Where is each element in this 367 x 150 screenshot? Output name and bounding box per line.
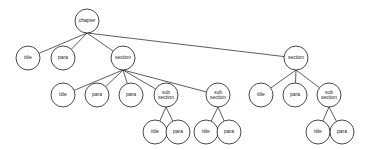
node-paraA2: para [119, 83, 143, 107]
tree-diagram: chaptertitleparasectionsectiontitleparap… [0, 0, 367, 150]
node-paraA2s: para [217, 120, 241, 144]
node-paraA1s: para [166, 120, 190, 144]
node-titleA: title [51, 83, 75, 107]
node-label: title [59, 91, 67, 97]
node-label: para [173, 128, 183, 134]
node-label: para [224, 128, 234, 134]
node-label: title [314, 128, 322, 134]
node-titleA2: title [194, 120, 218, 144]
node-label: para [290, 91, 300, 97]
node-label: section [115, 54, 131, 60]
node-subB: subsection [317, 83, 341, 107]
node-label: section [288, 54, 304, 60]
node-sectionA: section [111, 46, 135, 70]
node-label: section [158, 94, 174, 100]
node-label: title [24, 54, 32, 60]
edge-subA1-paraA1s [166, 107, 173, 121]
node-titleA1: title [143, 120, 167, 144]
node-paraB: para [283, 83, 307, 107]
node-label: section [321, 94, 337, 100]
node-titleB1: title [306, 120, 330, 144]
node-sectionB: section [284, 46, 308, 70]
node-subA2: subsection [206, 83, 230, 107]
edge-chapter-para1 [71, 33, 87, 49]
node-title1: title [16, 46, 40, 70]
node-label: para [337, 128, 347, 134]
node-titleB: title [249, 83, 273, 107]
tree-nodes: chaptertitleparasectionsectiontitleparap… [16, 9, 354, 144]
node-label: para [92, 91, 102, 97]
node-label: para [58, 54, 68, 60]
node-subA1: subsection [154, 83, 178, 107]
edge-subA2-titleA2 [211, 107, 218, 121]
node-paraA1: para [85, 83, 109, 107]
edge-sectionA-paraA1 [106, 70, 123, 87]
edge-subA1-titleA1 [160, 107, 166, 121]
node-label: para [126, 91, 136, 97]
edge-subA2-paraA2s [218, 107, 224, 121]
node-label: chapter [79, 17, 96, 23]
edge-subB-titleB1 [323, 107, 329, 121]
node-para1: para [51, 46, 75, 70]
node-paraB1: para [330, 120, 354, 144]
edge-subB-paraB1 [329, 107, 336, 121]
node-label: title [202, 128, 210, 134]
edge-sectionB-paraB [295, 70, 296, 83]
node-chapter: chapter [75, 9, 99, 33]
node-label: title [257, 91, 265, 97]
node-label: section [210, 94, 226, 100]
node-label: title [151, 128, 159, 134]
tree-edges [39, 33, 336, 121]
